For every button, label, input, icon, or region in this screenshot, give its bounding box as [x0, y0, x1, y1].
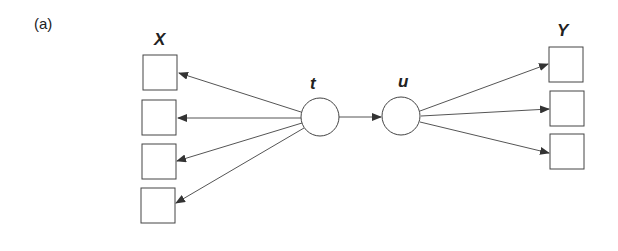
y-box-3: [550, 134, 584, 169]
edge-t-x1: [179, 73, 301, 112]
x-box-1: [143, 55, 177, 90]
diagram-canvas: [0, 0, 618, 251]
node-t: [301, 98, 339, 136]
y-box-1: [549, 47, 583, 82]
group-label-x: X: [154, 30, 165, 50]
node-label-t: t: [310, 74, 316, 94]
edge-t-x3: [177, 123, 302, 161]
x-box-4: [141, 188, 175, 223]
group-label-y: Y: [557, 21, 568, 41]
x-box-2: [142, 100, 176, 135]
edge-u-y1: [420, 64, 548, 111]
edge-t-x4: [176, 128, 304, 203]
edge-u-y2: [421, 109, 549, 116]
node-label-u: u: [398, 72, 408, 92]
x-box-3: [142, 144, 176, 179]
edge-u-y3: [420, 122, 549, 153]
node-u: [382, 97, 420, 135]
y-box-2: [550, 91, 584, 126]
panel-label: (a): [34, 15, 52, 32]
